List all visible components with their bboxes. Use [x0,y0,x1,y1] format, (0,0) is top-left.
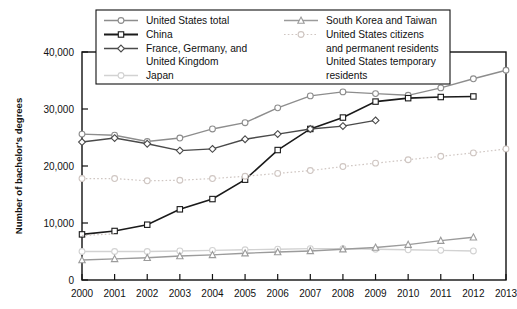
series-line [82,96,473,234]
data-point-marker [340,164,346,170]
x-tick-label: 2004 [201,288,224,299]
x-tick-label: 2012 [462,288,485,299]
data-point-marker [503,67,509,73]
legend-item-label: and permanent residents [326,43,439,54]
legend-item: and permanent residents [326,43,439,54]
data-point-marker [275,171,281,177]
chart-legend: United States totalChinaFrance, Germany,… [96,10,450,84]
data-point-marker [118,32,123,37]
data-point-marker [79,139,86,146]
y-tick-label: 30,000 [43,104,74,115]
data-point-marker [242,173,248,179]
data-point-marker [438,94,443,99]
legend-item: residents [326,70,367,81]
data-point-marker [210,196,215,201]
y-tick-label: 0 [68,275,74,286]
data-point-marker [298,32,304,38]
data-point-marker [79,176,85,182]
x-tick-label: 2000 [71,288,94,299]
legend-item-label: residents [326,70,367,81]
data-point-marker [307,93,313,99]
legend-item-label: United States temporary [326,56,437,67]
x-tick-label: 2007 [299,288,322,299]
data-point-marker [372,117,379,124]
data-point-marker [307,168,313,174]
x-tick-label: 2003 [169,288,192,299]
legend-item-label: United Kingdom [146,56,219,67]
data-point-marker [471,94,476,99]
data-point-marker [242,136,249,143]
data-point-marker [112,249,118,255]
data-point-marker [405,95,410,100]
data-point-marker [373,99,378,104]
x-tick-label: 2001 [103,288,126,299]
data-point-marker [275,147,280,152]
series-line [82,120,376,150]
y-axis-title: Number of bachelor's degrees [13,98,24,234]
x-tick-label: 2002 [136,288,159,299]
data-point-marker [405,157,411,163]
data-point-marker [438,85,444,91]
data-point-marker [118,73,124,79]
x-tick-label: 2013 [495,288,517,299]
x-tick-label: 2011 [430,288,452,299]
series-united-states-citizens-and-permanent-residents [79,146,509,184]
data-point-marker [340,89,346,95]
data-point-marker [79,249,85,255]
legend-item-label: United States citizens [326,29,424,40]
data-point-marker [145,222,150,227]
data-point-marker [209,146,216,153]
x-tick-label: 2005 [234,288,257,299]
data-point-marker [79,232,84,237]
series-south-korea-and-taiwan [79,234,477,263]
legend-item-label: France, Germany, and [146,43,247,54]
legend-item: United States temporary [326,56,437,67]
x-tick-label: 2010 [397,288,420,299]
data-point-marker [210,126,216,132]
data-point-marker [340,115,345,120]
data-point-marker [112,176,118,182]
data-point-marker [470,150,476,156]
data-point-marker [144,178,150,184]
data-point-marker [242,120,248,126]
chart-figure: 010,00020,00030,00040,000200020012002200… [0,0,517,309]
y-tick-label: 20,000 [43,161,74,172]
legend-item: United Kingdom [146,56,219,67]
data-point-marker [210,176,216,182]
legend-item-label: Japan [146,70,174,81]
series-france-germany-and-united-kingdom [79,117,379,154]
data-point-marker [274,131,281,138]
y-tick-label: 10,000 [43,218,74,229]
data-point-marker [470,248,476,254]
data-point-marker [79,131,85,137]
data-point-marker [438,247,444,253]
series-china [79,94,476,237]
data-point-marker [118,18,124,24]
x-tick-label: 2009 [364,288,387,299]
data-point-marker [470,76,476,82]
line-chart-svg: 010,00020,00030,00040,000200020012002200… [0,0,517,309]
data-point-marker [112,228,117,233]
legend-item-label: South Korea and Taiwan [326,15,437,26]
data-point-marker [340,123,347,130]
data-point-marker [176,147,183,154]
data-point-marker [177,177,183,183]
legend-item-label: China [146,29,173,40]
data-point-marker [503,146,509,152]
y-tick-label: 40,000 [43,47,74,58]
data-point-marker [177,207,182,212]
x-tick-label: 2008 [332,288,355,299]
data-point-marker [373,160,379,166]
legend-item-label: United States total [146,15,229,26]
data-point-marker [438,153,444,159]
x-tick-label: 2006 [267,288,290,299]
data-point-marker [275,105,281,111]
data-point-marker [373,91,379,97]
data-point-marker [177,135,183,141]
